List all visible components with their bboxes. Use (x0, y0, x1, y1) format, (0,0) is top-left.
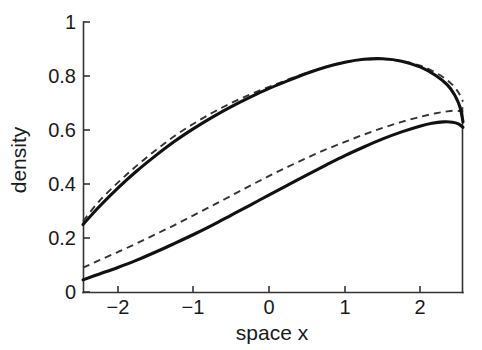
y-axis-tick-labels: 1 0.8 0.6 0.4 0.2 0 (48, 11, 76, 303)
y-tick-label-0: 0 (65, 281, 76, 303)
y-axis-title: density (7, 126, 30, 193)
y-tick-label-4: 0.8 (48, 65, 76, 87)
x-tick-label-3: 1 (339, 296, 350, 318)
x-axis-ticks (118, 286, 420, 293)
curve-upper-solid (83, 59, 463, 225)
y-tick-label-2: 0.4 (48, 173, 76, 195)
y-tick-label-3: 0.6 (48, 119, 76, 141)
curve-upper-dashed (83, 59, 463, 221)
x-tick-label-1: −1 (182, 296, 205, 318)
data-curves (83, 59, 463, 280)
x-axis-tick-labels: −2 −1 0 1 2 (107, 296, 426, 318)
x-axis-title: space x (236, 321, 309, 344)
curve-lower-dashed (83, 111, 463, 268)
x-tick-label-2: 0 (263, 296, 274, 318)
curve-lower-solid (83, 122, 463, 280)
x-tick-label-0: −2 (107, 296, 130, 318)
y-tick-label-5: 1 (65, 11, 76, 33)
y-axis-ticks (84, 22, 91, 292)
y-tick-label-1: 0.2 (48, 227, 76, 249)
chart-figure: 1 0.8 0.6 0.4 0.2 0 −2 −1 0 1 2 space x … (0, 0, 482, 350)
x-tick-label-4: 2 (414, 296, 425, 318)
plot-canvas: 1 0.8 0.6 0.4 0.2 0 −2 −1 0 1 2 space x … (0, 0, 482, 350)
